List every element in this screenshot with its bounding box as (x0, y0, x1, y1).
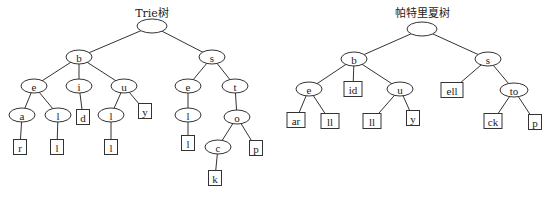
diagram-canvas: Trie树 帕特里夏树 bseiualdlyrlletlolcpkbseidua… (0, 0, 546, 197)
node-label: i (77, 81, 80, 93)
node-label: s (486, 54, 490, 66)
node-label: c (216, 142, 221, 154)
patricia-node-sell: ell (441, 83, 463, 98)
patricia-node-be: e (296, 82, 322, 96)
node-label: y (410, 113, 416, 125)
patricia-node-sto: to (500, 83, 528, 97)
node-label: p (253, 143, 259, 155)
trie-node-s: s (199, 50, 225, 64)
node-label: id (349, 84, 358, 96)
trie-node-bid: d (77, 110, 90, 125)
trie-node-sell: l (182, 136, 195, 151)
node-label: l (55, 142, 58, 154)
trie-node-se: e (175, 79, 201, 93)
node-label: t (233, 81, 236, 93)
node-label: to (510, 85, 519, 97)
node-label: ll (327, 116, 333, 128)
trie-node-bull: l (105, 140, 118, 155)
patricia-node-bid: id (344, 82, 362, 97)
patricia-title: 帕特里夏树 (395, 6, 450, 20)
node-label: y (142, 106, 148, 118)
node-label: ll (369, 116, 375, 128)
trie-title: Trie树 (135, 6, 169, 20)
node-label: u (121, 81, 127, 93)
trie-node-root (137, 19, 167, 33)
patricia-node-s: s (475, 52, 501, 66)
node-label: u (397, 84, 403, 96)
node-label: a (20, 110, 25, 122)
node-label: ck (488, 116, 499, 128)
node-label: l (109, 142, 112, 154)
node-label: e (186, 81, 191, 93)
patricia-node-root (407, 22, 437, 36)
nodes-layer: bseiualdlyrlletlolcpkbseiduarllllyelltoc… (9, 19, 542, 186)
node-label: l (109, 110, 112, 122)
node-label: d (80, 112, 86, 124)
patricia-node-stock: ck (484, 114, 502, 129)
trie-node-sto: o (224, 110, 250, 124)
trie-node-b: b (66, 50, 92, 64)
node-label: l (186, 110, 189, 122)
node-label: e (307, 84, 312, 96)
trie-node-bul: l (98, 108, 124, 122)
trie-node-sel: l (175, 108, 201, 122)
trie-node-stock: k (209, 171, 222, 186)
patricia-node-bear: ar (287, 113, 305, 128)
trie-node-buy: y (139, 104, 152, 119)
trie-node-stop: p (250, 141, 263, 156)
node-label: b (76, 52, 82, 64)
node-label: l (56, 110, 59, 122)
node-label: l (186, 138, 189, 150)
node-label: b (351, 54, 357, 66)
node-label: s (210, 52, 214, 64)
trie-node-bel: l (45, 108, 71, 122)
node-label: ar (292, 115, 301, 127)
node-label: o (234, 112, 240, 124)
edges-layer (20, 26, 535, 178)
ellipse-node-shape (407, 22, 437, 36)
patricia-node-buy: y (407, 111, 420, 126)
node-label: p (532, 117, 538, 129)
trie-node-bell: l (51, 140, 64, 155)
patricia-node-bull: ll (363, 114, 381, 129)
trie-node-bu: u (111, 79, 137, 93)
patricia-node-bell: ll (321, 114, 339, 129)
trie-node-stoc: c (205, 140, 231, 154)
node-label: r (18, 142, 22, 154)
trie-node-bi: i (66, 79, 92, 93)
patricia-node-bu: u (387, 82, 413, 96)
node-label: ell (447, 85, 458, 97)
trie-node-bear: r (14, 140, 27, 155)
trie-node-st: t (222, 79, 248, 93)
trie-node-bea: a (9, 108, 35, 122)
trie-node-be: e (21, 79, 47, 93)
patricia-node-stop: p (529, 115, 542, 130)
node-label: e (32, 81, 37, 93)
node-label: k (212, 173, 218, 185)
patricia-node-b: b (341, 52, 367, 66)
ellipse-node-shape (137, 19, 167, 33)
